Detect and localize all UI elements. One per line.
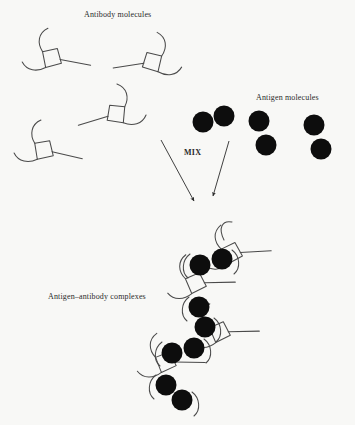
binding-arc-6 bbox=[204, 339, 211, 363]
antigen-molecule-5 bbox=[304, 115, 325, 136]
binding-arc-5 bbox=[155, 342, 162, 366]
free-antigen-group bbox=[193, 106, 332, 160]
mix-arrow-right bbox=[213, 141, 229, 196]
antibody-molecule-4 bbox=[13, 119, 82, 162]
binding-arc-2 bbox=[232, 250, 239, 274]
bound-antigen-7 bbox=[156, 375, 177, 396]
binding-arc-1 bbox=[183, 254, 190, 278]
antibody-molecule-3 bbox=[77, 83, 146, 126]
antigen-antibody-diagram bbox=[0, 0, 355, 425]
binding-arc-7 bbox=[149, 375, 156, 399]
bound-antigen-2 bbox=[212, 249, 233, 270]
bound-antigen-5 bbox=[162, 343, 183, 364]
binding-arc-3 bbox=[182, 297, 189, 321]
mix-label: MIX bbox=[184, 148, 201, 157]
antigen-molecules-label: Antigen molecules bbox=[256, 93, 319, 102]
bound-antigen-6 bbox=[184, 338, 205, 359]
bound-antigen-4 bbox=[195, 317, 216, 338]
antibody-molecule-1 bbox=[20, 25, 91, 71]
complex-lattice-group bbox=[130, 213, 272, 416]
antigen-antibody-complexes-label: Antigen–antibody complexes bbox=[48, 292, 146, 301]
binding-arc-8 bbox=[192, 392, 199, 416]
free-antibody-group bbox=[13, 25, 185, 162]
bound-antigen-8 bbox=[172, 390, 193, 411]
antibody-molecules-label: Antibody molecules bbox=[84, 10, 151, 19]
antigen-molecule-2 bbox=[214, 106, 235, 127]
antigen-molecule-1 bbox=[193, 112, 214, 133]
antigen-molecule-3 bbox=[249, 111, 270, 132]
bound-antigen-3 bbox=[189, 297, 210, 318]
antigen-molecule-4 bbox=[256, 135, 277, 156]
antibody-molecule-2 bbox=[113, 28, 185, 76]
bound-antigen-1 bbox=[190, 255, 211, 276]
figure-canvas: Antibody molecules Antigen molecules MIX… bbox=[0, 0, 355, 425]
antigen-molecule-6 bbox=[311, 139, 332, 160]
complex-antibody-1-free-arm bbox=[221, 222, 232, 240]
